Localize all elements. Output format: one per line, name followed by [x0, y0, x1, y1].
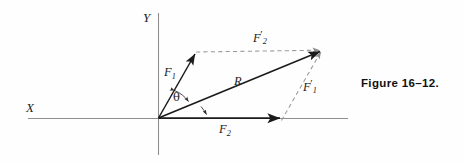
vector-label-f1-sub: 1 [172, 72, 176, 81]
vector-label-f2-main: F [219, 122, 227, 136]
vector-label-f2-prime-sub: 2 [263, 37, 267, 46]
angle-label-theta: θ [173, 92, 180, 104]
vector-label-f2-sub: 2 [227, 129, 231, 138]
axis-label-x: X [26, 101, 34, 114]
vector-f2-prime-line [196, 50, 320, 52]
angle-r-x-arc [201, 107, 207, 115]
vector-label-r: R [234, 75, 242, 88]
axis-label-y: Y [143, 11, 150, 24]
figure-container: X Y F1 F2 R F′2 F′1 θ Figure 16–12. [0, 0, 464, 165]
vector-label-f2: F2 [219, 123, 231, 138]
vector-f1-line [159, 54, 196, 118]
vector-label-f1-main: F [164, 65, 172, 79]
figure-caption: Figure 16–12. [361, 77, 439, 89]
vector-label-f1: F1 [164, 66, 176, 81]
vector-label-f1-prime: F′1 [303, 79, 317, 95]
vector-label-f1-prime-sub: 1 [313, 86, 317, 95]
vector-label-r-main: R [234, 74, 242, 88]
vector-label-f2-prime: F′2 [253, 30, 267, 46]
